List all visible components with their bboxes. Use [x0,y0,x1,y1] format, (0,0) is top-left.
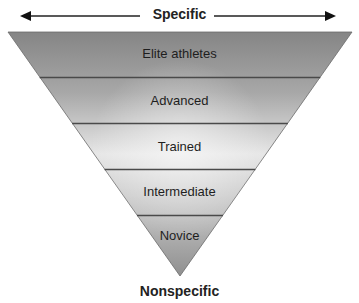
level-advanced: Advanced [0,93,359,108]
level-elite-athletes: Elite athletes [0,46,359,61]
level-trained: Trained [0,139,359,154]
level-novice: Novice [0,228,359,243]
specificity-pyramid-diagram: Specific Elite athletes Advanced Trained… [0,0,359,303]
level-intermediate: Intermediate [0,184,359,199]
nonspecific-label: Nonspecific [0,283,359,299]
specific-label: Specific [0,6,359,22]
